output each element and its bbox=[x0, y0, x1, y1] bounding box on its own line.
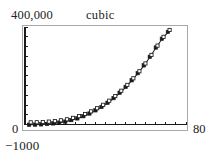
y-axis bbox=[25, 27, 28, 125]
data-markers bbox=[27, 28, 171, 126]
x-axis-max-label: 80 bbox=[193, 123, 206, 136]
y-axis-lower-bound-label: −1000 bbox=[5, 139, 39, 152]
chart-title: cubic bbox=[86, 9, 115, 22]
chart-screenshot: 400,000 cubic 0 −1000 80 bbox=[0, 0, 212, 157]
y-axis-min-label: 0 bbox=[12, 123, 18, 136]
plot-canvas bbox=[22, 25, 188, 131]
y-axis-max-label: 400,000 bbox=[11, 9, 53, 22]
data-curve bbox=[29, 32, 168, 124]
